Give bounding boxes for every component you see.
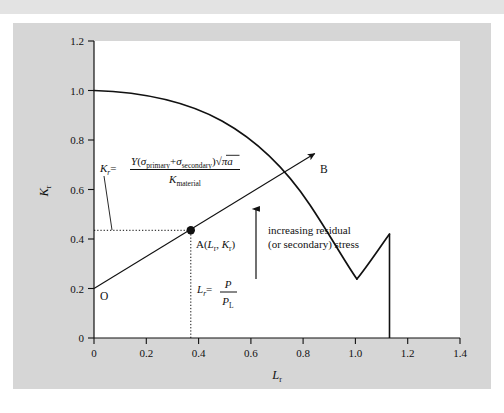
- lr-den-sub: L: [229, 301, 234, 310]
- point-o-label: O: [100, 290, 108, 302]
- x-tick-label-0.6: 0.6: [244, 347, 258, 359]
- kr-num-pi-a: πa: [222, 155, 234, 167]
- point-a-marker: [187, 226, 195, 234]
- x-axis-title-var: L: [271, 368, 279, 382]
- x-tick-label-0: 0: [91, 347, 97, 359]
- y-axis: [88, 41, 94, 338]
- x-tick-label-1.2: 1.2: [401, 347, 415, 359]
- y-tick-label-0.6: 0.6: [70, 184, 84, 196]
- kr-num-sigma2-sub: secondary: [182, 161, 213, 170]
- y-tick-label-0.2: 0.2: [70, 283, 84, 295]
- y-tick-label-1.2: 1.2: [70, 35, 84, 47]
- point-a-label-close: ): [232, 238, 236, 251]
- lr-formula-equals: =: [206, 283, 212, 295]
- point-a-label-var1: L: [207, 238, 214, 250]
- point-b-label: B: [320, 163, 328, 175]
- y-tick-label-1.0: 1.0: [70, 85, 84, 97]
- x-tick-labels: 0 0.2 0.4 0.6 0.8 1.0 1.2 1.4: [91, 347, 467, 359]
- x-axis: [94, 338, 460, 344]
- y-tick-labels: 1.2 1.0 0.8 0.6 0.4 0.2 0: [70, 35, 84, 344]
- point-a-label-open: A(: [196, 238, 208, 251]
- x-tick-label-0.8: 0.8: [296, 347, 310, 359]
- figure-root: 1.2 1.0 0.8 0.6 0.4 0.2 0 0 0.2 0.4 0.6 …: [0, 0, 504, 413]
- x-tick-label-1.4: 1.4: [453, 347, 467, 359]
- kr-num-sigma1-sub: primary: [146, 161, 170, 170]
- kr-formula-equals: =: [110, 162, 116, 174]
- fad-chart: 1.2 1.0 0.8 0.6 0.4 0.2 0 0 0.2 0.4 0.6 …: [0, 0, 504, 413]
- x-tick-label-0.4: 0.4: [192, 347, 206, 359]
- y-tick-label-0.4: 0.4: [70, 233, 84, 245]
- residual-stress-label-line2: (or secondary) stress: [268, 238, 359, 251]
- x-tick-label-0.2: 0.2: [139, 347, 153, 359]
- y-tick-label-0: 0: [79, 332, 85, 344]
- x-axis-title: Lr: [271, 368, 282, 384]
- x-tick-label-1.0: 1.0: [349, 347, 363, 359]
- x-axis-title-sub: r: [279, 375, 282, 384]
- y-axis-title: Kr: [37, 185, 53, 197]
- kr-den-sub: material: [176, 179, 201, 188]
- lr-formula-numerator: P: [224, 278, 232, 290]
- plot-area-background: [94, 41, 460, 338]
- lr-formula-lhs-var: L: [196, 283, 203, 295]
- residual-stress-label-line1: increasing residual: [268, 224, 351, 236]
- y-tick-label-0.8: 0.8: [70, 134, 84, 146]
- y-axis-title-sub: r: [44, 185, 53, 188]
